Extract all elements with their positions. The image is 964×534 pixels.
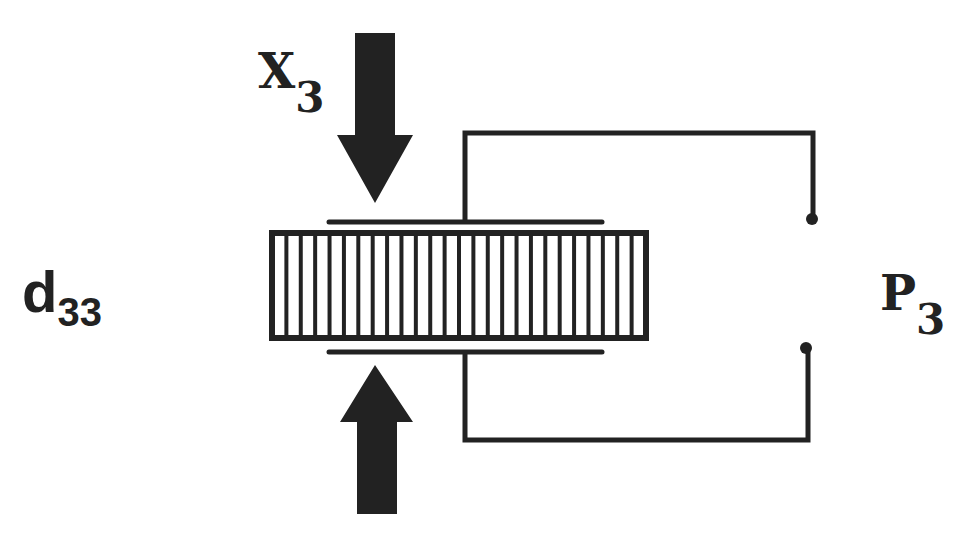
bottom-force-arrow-icon (340, 365, 413, 514)
bottom-terminal (800, 342, 812, 354)
piezo-block (272, 233, 646, 338)
x3-sub: 3 (295, 73, 324, 122)
p3-main: P (880, 265, 916, 321)
d33-main: d (22, 259, 57, 324)
p3-sub: 3 (916, 295, 945, 344)
svg-text:P3: P3 (880, 265, 945, 344)
top-wire (465, 133, 813, 222)
p3-label: P3 (880, 265, 945, 344)
piezo-d33-diagram: d33 X3 P3 (0, 0, 964, 534)
x3-label: X3 (258, 43, 324, 122)
top-terminal (806, 213, 818, 225)
d33-label: d33 (22, 259, 102, 334)
diagram-svg: d33 X3 P3 (0, 0, 964, 534)
bottom-wire (465, 350, 808, 440)
d33-sub: 33 (57, 290, 102, 334)
top-force-arrow-icon (337, 33, 413, 203)
svg-text:d33: d33 (22, 259, 102, 334)
x3-main: X (258, 43, 296, 99)
svg-text:X3: X3 (258, 43, 324, 122)
